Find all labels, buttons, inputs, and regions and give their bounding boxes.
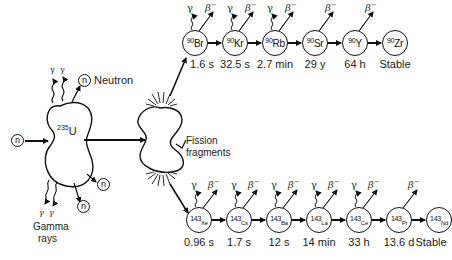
- fission-fragments-label-1: Fission: [186, 136, 218, 146]
- half-life-nd-143: Stable: [414, 237, 448, 248]
- nuclide-ce-143: 143Ce: [346, 207, 372, 233]
- mass-number: 143: [270, 215, 281, 222]
- nuclide-br-90: 90Br: [182, 30, 208, 56]
- uranium-symbol: U: [69, 125, 77, 137]
- beta-charge: −: [334, 178, 340, 186]
- element-symbol: Zr: [394, 38, 403, 49]
- neutron-symbol: n: [15, 136, 20, 145]
- emitted-neutron-top: n: [78, 74, 91, 87]
- beta-label-cs: β−: [248, 179, 260, 190]
- element-symbol: Br: [194, 38, 203, 49]
- mass-number: 143: [391, 215, 402, 222]
- mass-number: 90: [227, 37, 234, 44]
- beta-label-kr: β−: [245, 2, 257, 13]
- gamma-label-xe: γ: [191, 180, 197, 190]
- gamma-label-ce: γ: [351, 180, 357, 190]
- mass-number: 90: [187, 37, 194, 44]
- neutron-symbol: n: [81, 202, 86, 211]
- element-symbol: Kr: [234, 38, 243, 49]
- gamma-label-cs: γ: [231, 180, 237, 190]
- element-symbol: La: [321, 220, 327, 226]
- mass-number: 90: [348, 37, 355, 44]
- beta-label-y: β−: [365, 2, 377, 13]
- element-symbol: Rb: [273, 38, 285, 49]
- half-life-zr-90: Stable: [370, 59, 420, 70]
- nuclide-y-90: 90Y: [342, 30, 368, 56]
- mass-number: 143: [190, 215, 201, 222]
- mass-number: 143: [311, 215, 322, 222]
- element-symbol: Cs: [241, 220, 248, 226]
- beta-label-pr: β−: [408, 179, 420, 190]
- mass-number: 143: [430, 215, 441, 222]
- emitted-neutron-bottom: n: [77, 200, 90, 213]
- mass-number: 90: [307, 37, 314, 44]
- gamma-label-rb: γ: [267, 3, 273, 13]
- element-symbol: Nd: [441, 220, 448, 226]
- beta-charge: −: [414, 178, 420, 186]
- nuclide-pr-143: 143Pr: [386, 207, 412, 233]
- beta-label-rb: β−: [285, 2, 297, 13]
- beta-label-ba: β−: [288, 179, 300, 190]
- beta-charge: −: [251, 1, 257, 9]
- nuclide-zr-90: 90Zr: [382, 30, 408, 56]
- element-symbol: Xe: [201, 220, 208, 226]
- gamma-label-br: γ: [187, 3, 193, 13]
- gamma-label-top-1: γ: [50, 66, 55, 74]
- element-symbol: Pr: [402, 220, 407, 226]
- beta-charge: −: [331, 1, 337, 9]
- beta-charge: −: [371, 1, 377, 9]
- beta-label-xe: β−: [208, 179, 220, 190]
- mass-number: 143: [350, 215, 361, 222]
- gamma-label-bottom-1: γ: [39, 209, 44, 217]
- gamma-label-kr: γ: [227, 3, 233, 13]
- mass-number: 143: [230, 215, 241, 222]
- uranium-mass-number: 235: [57, 124, 69, 131]
- beta-charge: −: [211, 1, 217, 9]
- beta-charge: −: [254, 178, 260, 186]
- gamma-label-bottom-2: γ: [49, 209, 54, 217]
- element-symbol: Sr: [314, 38, 323, 49]
- gamma-label-top-2: γ: [60, 66, 65, 74]
- beta-label-br: β−: [205, 2, 217, 13]
- beta-label-sr: β−: [325, 2, 337, 13]
- gamma-rays-label-2: rays: [38, 234, 57, 244]
- mass-number: 90: [387, 37, 394, 44]
- neutron-label: Neutron: [94, 75, 133, 86]
- neutron-symbol: n: [82, 76, 87, 85]
- element-symbol: Ba: [281, 220, 288, 226]
- nuclide-la-143: 143La: [306, 207, 332, 233]
- beta-charge: −: [294, 178, 300, 186]
- nuclide-kr-90: 90Kr: [222, 30, 248, 56]
- gamma-label-ba: γ: [271, 180, 277, 190]
- nuclide-rb-90: 90Rb: [262, 30, 288, 56]
- beta-charge: −: [214, 178, 220, 186]
- beta-label-la: β−: [328, 179, 340, 190]
- nuclide-sr-90: 90Sr: [302, 30, 328, 56]
- element-symbol: Ce: [361, 220, 368, 226]
- uranium-235-label: 235U: [57, 124, 77, 137]
- emitted-neutron-right: n: [97, 178, 110, 191]
- nuclide-xe-143: 143Xe: [186, 207, 212, 233]
- element-symbol: Y: [355, 38, 361, 49]
- beta-label-ce: β−: [368, 179, 380, 190]
- beta-charge: −: [291, 1, 297, 9]
- neutron-symbol: n: [101, 180, 106, 189]
- fission-fragments-label-2: fragments: [186, 148, 230, 158]
- nuclide-cs-143: 143Cs: [226, 207, 252, 233]
- gamma-label-la: γ: [311, 180, 317, 190]
- beta-charge: −: [374, 178, 380, 186]
- nuclide-nd-143: 143Nd: [426, 207, 452, 233]
- gamma-rays-label-1: Gamma: [33, 222, 69, 232]
- incoming-neutron: n: [11, 134, 24, 147]
- uranium-nucleus-shape: [45, 103, 93, 187]
- nuclide-ba-143: 143Ba: [266, 207, 292, 233]
- mass-number: 90: [265, 37, 272, 44]
